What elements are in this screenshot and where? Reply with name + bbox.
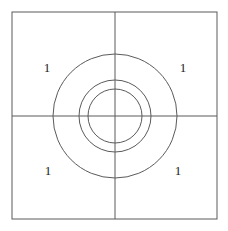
label-top-right: 1 — [180, 60, 187, 75]
label-bottom-right: 1 — [175, 163, 182, 178]
label-bottom-left: 1 — [45, 163, 52, 178]
diagram-canvas: 1 1 1 1 — [0, 0, 228, 231]
label-top-left: 1 — [44, 60, 51, 75]
geometry-diagram: 1 1 1 1 — [0, 0, 228, 231]
